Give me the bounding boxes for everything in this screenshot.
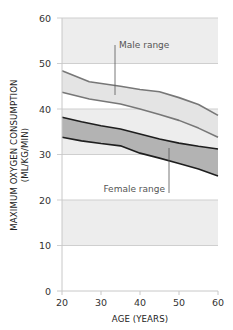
female-range-label: Female range (103, 184, 165, 194)
y-tick-label: 50 (39, 58, 51, 69)
shaded-band (62, 200, 218, 246)
x-axis-title: AGE (YEARS) (112, 314, 168, 324)
oxygen-consumption-chart: 01020304050602030405060 Male range Femal… (0, 0, 233, 330)
y-tick-label: 10 (39, 240, 51, 251)
y-tick-label: 30 (39, 149, 51, 160)
y-axis-title-line2: (ML/KG/MIN) (20, 128, 30, 182)
male-range-label: Male range (119, 40, 170, 50)
x-tick-label: 20 (56, 297, 68, 308)
y-axis-title-line1: MAXIMUM OXYGEN CONSUMPTION (9, 79, 19, 230)
x-tick-label: 60 (212, 297, 224, 308)
y-tick-label: 20 (39, 195, 51, 206)
y-tick-label: 40 (39, 104, 51, 115)
y-tick-label: 60 (39, 13, 51, 24)
x-tick-label: 40 (134, 297, 146, 308)
x-tick-label: 50 (173, 297, 185, 308)
y-tick-label: 0 (45, 286, 51, 297)
x-tick-label: 30 (95, 297, 107, 308)
